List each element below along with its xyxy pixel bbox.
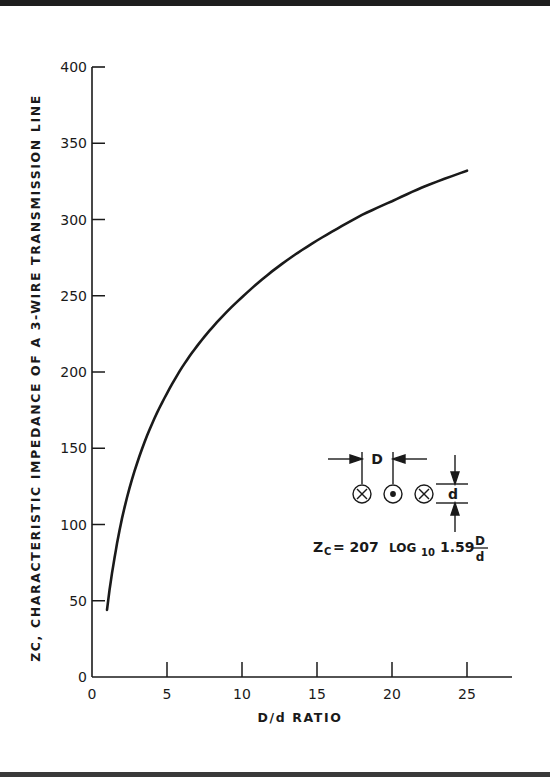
x-ticks: 0510152025: [88, 662, 476, 702]
formula-coef: 1.59: [440, 539, 475, 555]
y-tick-label: 350: [60, 135, 87, 151]
d-arrow-bottom-head: [451, 503, 459, 515]
x-tick-label: 20: [383, 686, 401, 702]
x-tick-label: 25: [458, 686, 476, 702]
y-tick-label: 50: [69, 593, 87, 609]
y-axis-title: ZC, CHARACTERISTIC IMPEDANCE OF A 3-WIRE…: [28, 94, 43, 662]
D-label: D: [371, 451, 383, 467]
formula-log: LOG: [389, 541, 416, 555]
D-arrow-right-head: [393, 455, 405, 463]
formula-z: Z: [313, 539, 323, 555]
formula-eq: = 207: [333, 539, 379, 555]
formula-log-base: 10: [421, 547, 435, 558]
d-label: d: [448, 486, 458, 502]
axes: [92, 67, 512, 677]
D-arrow-left-head: [350, 455, 362, 463]
d-arrow-top-head: [451, 472, 459, 484]
y-tick-label: 200: [60, 364, 87, 380]
formula: Z C = 207 LOG 10 1.59 D d: [313, 534, 488, 564]
y-ticks: 050100150200250300350400: [60, 59, 105, 685]
x-axis-title: D/d RATIO: [258, 710, 343, 725]
x-tick-label: 0: [88, 686, 97, 702]
x-tick-label: 10: [233, 686, 251, 702]
formula-numerator: D: [475, 534, 485, 548]
impedance-chart: 050100150200250300350400 0510152025 ZC, …: [0, 0, 550, 780]
formula-denominator: d: [476, 550, 485, 564]
y-tick-label: 250: [60, 288, 87, 304]
x-tick-label: 15: [308, 686, 326, 702]
y-tick-label: 150: [60, 440, 87, 456]
formula-sub-c: C: [324, 546, 331, 557]
y-tick-label: 100: [60, 517, 87, 533]
y-tick-label: 400: [60, 59, 87, 75]
y-tick-label: 0: [78, 669, 87, 685]
y-tick-label: 300: [60, 212, 87, 228]
conductor-center-dot: [391, 492, 395, 496]
x-tick-label: 5: [163, 686, 172, 702]
